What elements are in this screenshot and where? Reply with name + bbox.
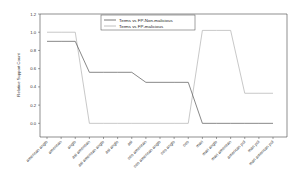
legend: Terms vs FP-Non-maliciousTerms vs FP-mal… xyxy=(101,15,195,30)
x-tick-label: american anglo xyxy=(25,139,49,163)
y-tick-label: 1.0 xyxy=(30,30,36,35)
plot-area xyxy=(40,14,287,137)
x-tick-label: asi american anglo xyxy=(77,139,106,168)
y-tick-label: 0.2 xyxy=(30,103,36,108)
line-chart: 1.21.00.80.60.40.20.0 Relative Support C… xyxy=(0,0,302,183)
legend-label: Terms vs FP-Non-malicious xyxy=(119,18,173,23)
x-tick-label: oeo xyxy=(181,139,190,148)
y-tick-label: 1.2 xyxy=(30,12,36,17)
x-tick-label: anglo xyxy=(66,139,77,150)
x-tick-label: asi xyxy=(126,139,133,146)
series-lines xyxy=(47,30,273,123)
y-tick-label: 0.6 xyxy=(30,66,36,71)
x-tick-label: mari xyxy=(195,139,204,148)
series-line xyxy=(47,41,273,123)
legend-label: Terms vs FP-malicious xyxy=(119,24,164,29)
y-tick-label: 0.4 xyxy=(30,84,36,89)
x-axis-ticks: american angloamericanangloasi americana… xyxy=(25,137,275,169)
x-tick-label: oeo american anglo xyxy=(132,139,162,169)
y-tick-label: 0.0 xyxy=(30,121,36,126)
series-line xyxy=(47,30,273,123)
y-axis-ticks: 1.21.00.80.60.40.20.0 xyxy=(30,12,40,126)
x-tick-label: american xyxy=(47,139,63,155)
y-axis-title: Relative Support Count xyxy=(16,53,21,97)
x-tick-label: oeo anglo xyxy=(159,139,176,156)
y-tick-label: 0.8 xyxy=(30,48,36,53)
x-tick-label: asi anglo xyxy=(104,139,120,155)
